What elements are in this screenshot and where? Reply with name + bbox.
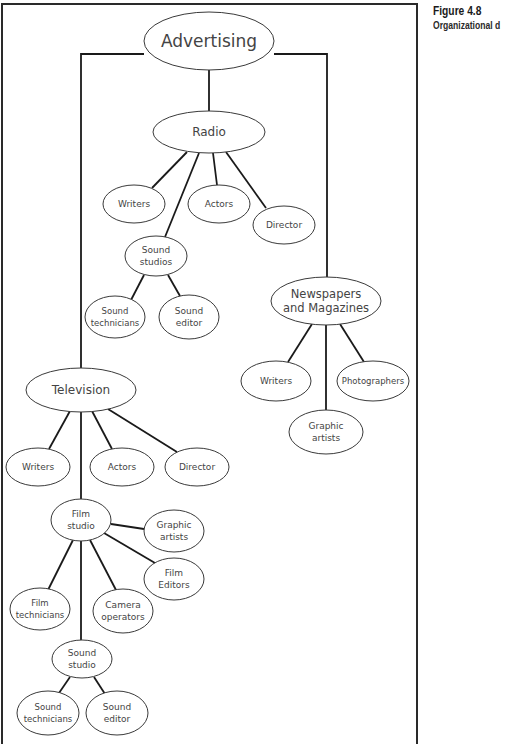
node-tv-sound-studio: Soundstudio [52, 640, 112, 678]
edge-tv-sound-studio-to-tv-sound-editor [94, 677, 105, 694]
node-film-graphic-artists: Graphicartists [144, 510, 204, 552]
node-label: Writers [260, 376, 292, 386]
node-label: technicians [24, 714, 73, 724]
edge-radio-to-radio-actors [213, 153, 217, 185]
node-tv-director: Director [165, 448, 229, 486]
node-label: Sound [102, 306, 129, 316]
edge-newspapers-to-news-writers [288, 324, 312, 362]
node-radio-sound-technicians: Soundtechnicians [85, 296, 145, 338]
figure-caption: Figure 4.8 Organizational d [433, 4, 505, 31]
node-radio-actors: Actors [188, 185, 250, 223]
node-film-studio: Filmstudio [51, 499, 111, 541]
node-newspapers: Newspapersand Magazines [271, 277, 381, 325]
node-label: Camera [105, 600, 140, 610]
figure-description: Organizational d [433, 19, 500, 31]
node-label: Sound [35, 702, 62, 712]
node-label: technicians [91, 318, 140, 328]
node-label: artists [160, 532, 188, 542]
node-label: studios [140, 257, 173, 267]
node-label: artists [312, 433, 340, 443]
node-radio: Radio [153, 111, 265, 153]
edge-tv-sound-studio-to-tv-sound-technicians [59, 677, 70, 693]
node-news-photographers: Photographers [337, 361, 409, 401]
edge-radio-sound-studios-to-radio-sound-editor [168, 275, 180, 296]
node-tv-sound-editor: Soundeditor [86, 691, 148, 735]
node-label: Advertising [161, 31, 257, 51]
node-news-graphic-artists: Graphicartists [289, 410, 363, 454]
node-tv-sound-technicians: Soundtechnicians [17, 691, 79, 735]
edge-television-to-tv-actors [92, 411, 112, 449]
node-label: Sound [175, 306, 203, 316]
node-label: Editors [158, 580, 190, 590]
diagram-nodes: AdvertisingRadioWritersActorsDirectorSou… [6, 12, 409, 735]
figure-number: Figure 4.8 [433, 4, 504, 18]
node-film-technicians: Filmtechnicians [10, 588, 70, 630]
node-label: Film [31, 598, 48, 608]
node-television: Television [26, 368, 136, 412]
node-label: Sound [103, 702, 131, 712]
node-label: Film [165, 568, 183, 578]
edge-radio-to-radio-writers [152, 152, 187, 188]
edge-newspapers-to-news-photographers [340, 324, 364, 362]
edge-television-to-tv-writers [49, 411, 70, 449]
node-news-writers: Writers [241, 361, 311, 401]
node-radio-director: Director [253, 206, 315, 244]
node-label: studio [68, 660, 96, 670]
node-label: editor [176, 318, 203, 328]
node-film-editors: FilmEditors [144, 558, 204, 600]
node-camera-operators: Cameraoperators [93, 589, 153, 633]
node-label: Director [179, 462, 215, 472]
node-label: Newspapers [291, 287, 362, 301]
edge-radio-sound-studios-to-radio-sound-technicians [131, 275, 144, 300]
node-radio-sound-editor: Soundeditor [159, 295, 219, 339]
node-label: Graphic [308, 421, 343, 431]
edge-film-studio-to-film-graphic-artists [111, 524, 144, 529]
node-advertising: Advertising [144, 12, 274, 70]
node-tv-writers: Writers [6, 448, 70, 486]
node-label: Photographers [342, 376, 405, 386]
edge-film-studio-to-film-technicians [48, 540, 73, 590]
node-label: Sound [142, 245, 170, 255]
node-tv-actors: Actors [90, 448, 154, 486]
node-label: Writers [118, 199, 150, 209]
node-label: technicians [16, 610, 65, 620]
node-label: and Magazines [283, 301, 369, 315]
node-label: Graphic [156, 520, 191, 530]
edge-film-studio-to-camera-operators [90, 540, 116, 590]
node-radio-sound-studios: Soundstudios [125, 236, 187, 276]
node-label: Actors [108, 462, 137, 472]
node-label: studio [67, 521, 95, 531]
edge-television-to-tv-director [108, 409, 177, 452]
node-label: Television [51, 383, 110, 397]
node-label: Sound [68, 648, 96, 658]
node-label: Director [266, 220, 302, 230]
node-label: Radio [192, 125, 226, 139]
node-radio-writers: Writers [103, 185, 165, 223]
node-label: Actors [205, 199, 234, 209]
node-label: Writers [22, 462, 54, 472]
node-label: editor [104, 714, 131, 724]
node-label: operators [101, 612, 145, 622]
node-label: Film [72, 509, 90, 519]
